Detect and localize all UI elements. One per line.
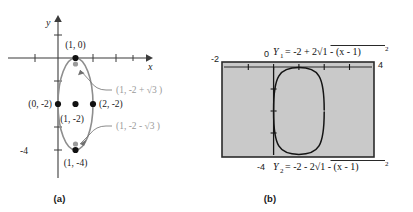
y-tick-label--4: -4: [20, 146, 28, 156]
equation-y2-name: Y: [273, 161, 280, 172]
equation-y1-body: = -2 + 2√1 - (x - 1): [285, 46, 361, 58]
y-axis-group: y -4: [20, 15, 62, 178]
y-axis-label: y: [45, 17, 51, 28]
point-top-vertex: [72, 55, 78, 61]
equation-y2: Y 2 = -2 - 2√1 - (x - 1) 2: [273, 160, 389, 175]
label-left-vertex: (0, -2): [28, 99, 52, 110]
window-label-ymax: 0: [264, 49, 269, 59]
x-axis-label: x: [147, 61, 153, 72]
point-upper-focus: [73, 61, 78, 66]
panel-a-coordinate-graph: x y -4: [0, 0, 207, 212]
equation-y2-subscript: 2: [280, 167, 284, 175]
label-top-vertex: (1, 0): [65, 40, 86, 51]
equation-y1-name: Y: [273, 46, 280, 57]
equation-y1: Y 1 = -2 + 2√1 - (x - 1) 2: [273, 45, 389, 60]
calculator-screen-frame: [222, 62, 374, 157]
equation-y1-exponent: 2: [385, 45, 389, 53]
panel-b-svg: -2 4 0 -4 Y 1 = -2 + 2√1 - (x - 1) 2 Y 2…: [207, 0, 413, 212]
window-label-xmin: -2: [211, 54, 219, 64]
point-right-vertex: [90, 101, 96, 107]
point-bottom-vertex: [72, 147, 78, 153]
label-center: (1, -2): [60, 114, 84, 125]
equation-y2-exponent: 2: [385, 160, 389, 168]
y-axis-arrowhead: [54, 15, 62, 22]
label-right-vertex: (2, -2): [99, 99, 123, 110]
equation-y2-body: = -2 - 2√1 - (x - 1): [285, 161, 359, 173]
label-upper-focus: (1, -2 + √3 ): [116, 85, 162, 96]
panel-b-calculator-screen: -2 4 0 -4 Y 1 = -2 + 2√1 - (x - 1) 2 Y 2…: [207, 0, 413, 212]
label-lower-focus: (1, -2 - √3 ): [116, 121, 160, 132]
equation-y1-subscript: 1: [280, 52, 284, 60]
x-axis-group: x: [8, 54, 153, 72]
label-bottom-vertex: (1, -4): [64, 158, 88, 169]
point-lower-focus: [73, 141, 78, 146]
panel-a-caption: (a): [0, 193, 163, 204]
point-left-vertex: [55, 101, 61, 107]
upper-focus-leader: [80, 70, 112, 90]
panel-a-svg: x y -4: [0, 0, 207, 212]
panel-b-caption: (b): [167, 193, 373, 204]
point-center: [72, 101, 78, 107]
window-label-xmax: 4: [378, 60, 383, 70]
textbook-figure: x y -4: [0, 0, 413, 212]
window-label-ymin: -4: [257, 162, 265, 172]
